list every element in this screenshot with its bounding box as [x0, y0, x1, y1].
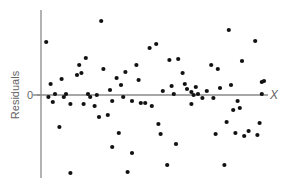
data-point	[82, 102, 86, 106]
data-point	[121, 95, 125, 99]
data-point	[88, 95, 92, 99]
data-point	[44, 40, 48, 44]
data-point	[150, 104, 154, 108]
data-point	[231, 108, 235, 112]
data-point	[209, 63, 213, 67]
data-point	[49, 82, 53, 86]
data-point	[110, 99, 114, 103]
data-point	[181, 71, 185, 75]
y-axis-label: Residuals	[9, 70, 21, 119]
data-point	[167, 58, 171, 62]
data-points	[44, 19, 266, 175]
data-point	[253, 39, 257, 43]
data-point	[258, 121, 262, 125]
data-point	[174, 142, 178, 146]
data-point	[238, 106, 242, 110]
data-point	[236, 99, 240, 103]
data-point	[161, 89, 165, 93]
data-point	[218, 86, 222, 90]
data-point	[93, 104, 97, 108]
data-point	[255, 133, 259, 137]
data-point	[60, 77, 64, 81]
data-point	[53, 92, 57, 96]
data-point	[137, 78, 141, 82]
data-point	[148, 46, 152, 50]
data-point	[194, 85, 198, 89]
data-point	[200, 96, 204, 100]
data-point	[108, 88, 112, 92]
data-point	[189, 102, 193, 106]
data-point	[75, 73, 79, 77]
data-point	[172, 92, 176, 96]
data-point	[165, 163, 169, 167]
data-point	[130, 151, 134, 155]
data-point	[119, 83, 123, 87]
data-point	[134, 63, 138, 67]
data-point	[185, 87, 189, 91]
data-point	[229, 83, 233, 87]
data-point	[115, 76, 119, 80]
data-point	[225, 120, 229, 124]
data-point	[46, 95, 50, 99]
data-point	[262, 79, 266, 83]
data-point	[192, 93, 196, 97]
data-point	[95, 93, 99, 97]
x-axis-label: X	[269, 88, 279, 102]
data-point	[227, 28, 231, 32]
data-point	[139, 101, 143, 105]
data-point	[260, 92, 264, 96]
data-point	[110, 145, 114, 149]
data-point	[159, 132, 163, 136]
data-point	[126, 170, 130, 174]
data-point	[211, 96, 215, 100]
data-point	[242, 134, 246, 138]
data-point	[64, 92, 68, 96]
data-point	[106, 113, 110, 117]
data-point	[233, 131, 237, 135]
data-point	[68, 171, 72, 175]
data-point	[170, 84, 174, 88]
data-point	[222, 163, 226, 167]
data-point	[196, 92, 200, 96]
residual-plot: 0 Residuals X	[0, 0, 293, 193]
data-point	[99, 19, 103, 23]
data-point	[97, 115, 101, 119]
data-point	[84, 56, 88, 60]
data-point	[176, 57, 180, 61]
data-point	[143, 101, 147, 105]
data-point	[240, 59, 244, 63]
data-point	[79, 71, 83, 75]
data-point	[183, 82, 187, 86]
y-zero-tick-label: 0	[27, 89, 33, 101]
data-point	[117, 131, 121, 135]
data-point	[51, 100, 55, 104]
data-point	[154, 42, 158, 46]
data-point	[77, 63, 81, 67]
data-point	[247, 129, 251, 133]
data-point	[123, 70, 127, 74]
data-point	[216, 67, 220, 71]
data-point	[205, 89, 209, 93]
data-point	[101, 67, 105, 71]
data-point	[130, 99, 134, 103]
data-point	[156, 122, 160, 126]
data-point	[214, 132, 218, 136]
data-point	[57, 125, 61, 129]
data-point	[68, 102, 72, 106]
